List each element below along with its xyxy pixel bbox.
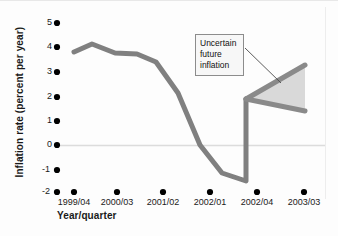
ytick-label: 0 <box>36 139 52 149</box>
xtick-label: 2001/02 <box>137 197 189 207</box>
ytick-dot <box>54 142 60 148</box>
ytick-dot <box>54 167 60 173</box>
xtick-dot <box>207 189 213 195</box>
xtick-dot <box>114 189 120 195</box>
ytick-dot <box>54 94 60 100</box>
ytick-label: -1 <box>34 164 50 174</box>
y-axis-title: Inflation rate (percent per year) <box>14 28 25 178</box>
xtick-label: 2002/01 <box>184 197 236 207</box>
ytick-label: 3 <box>36 66 52 76</box>
x-axis-title: Year/quarter <box>57 210 117 221</box>
annotation-line-2: future <box>200 49 239 60</box>
ytick-label: -2 <box>34 186 50 196</box>
annotation-line-3: inflation <box>200 60 239 71</box>
xtick-label: 2003/03 <box>278 197 330 207</box>
xtick-dot <box>160 189 166 195</box>
ytick-dot <box>54 20 60 26</box>
chart-figure: 5 4 3 2 1 0 -1 -2 1999/04 2000/03 2001/0… <box>0 0 338 236</box>
xtick-label: 2002/04 <box>231 197 283 207</box>
annotation-leader-line <box>245 48 281 83</box>
annotation-callout: Uncertain future inflation <box>195 34 244 76</box>
ytick-dot <box>54 189 60 195</box>
annotation-line-1: Uncertain <box>200 38 239 49</box>
ytick-label: 5 <box>36 17 52 27</box>
ytick-dot <box>54 44 60 50</box>
xtick-dot <box>254 189 260 195</box>
ytick-label: 4 <box>36 41 52 51</box>
xtick-dot <box>301 189 307 195</box>
ytick-label: 2 <box>36 91 52 101</box>
xtick-label: 2000/03 <box>91 197 143 207</box>
xtick-dot <box>71 189 77 195</box>
ytick-dot <box>54 69 60 75</box>
ytick-label: 1 <box>36 115 52 125</box>
ytick-dot <box>54 118 60 124</box>
